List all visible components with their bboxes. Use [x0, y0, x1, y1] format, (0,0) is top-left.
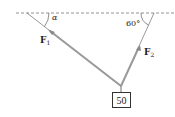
weight-label: 50 — [117, 95, 127, 106]
force-label-f1: F1 — [40, 36, 50, 46]
weight-box: 50 — [112, 92, 131, 108]
force-label-f2: F2 — [144, 48, 154, 58]
force-label-f2-subscript: 2 — [150, 51, 154, 58]
force-vector-f2 — [121, 47, 139, 86]
angle-label-alpha: α — [52, 14, 57, 22]
angle-arc-60 — [141, 13, 149, 25]
angle-arc-alpha — [45, 13, 50, 27]
force-label-f1-subscript: 1 — [46, 39, 50, 46]
diagram-canvas — [0, 0, 175, 117]
angle-label-60: 60° — [126, 20, 140, 28]
arrowhead-f2-icon — [136, 45, 141, 51]
force-vector-f1 — [50, 31, 121, 86]
